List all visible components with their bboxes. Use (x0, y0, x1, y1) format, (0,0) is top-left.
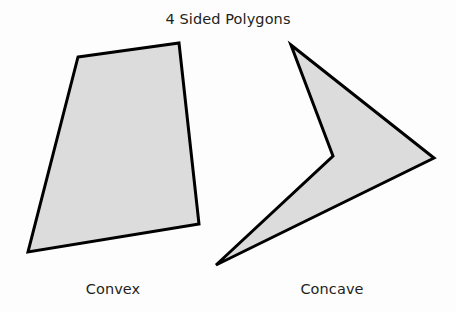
convex-label: Convex (53, 281, 173, 297)
polygon-canvas (0, 0, 456, 312)
convex-polygon-shape (28, 43, 199, 252)
concave-label: Concave (272, 281, 392, 297)
concave-polygon-shape (216, 45, 434, 265)
polygon-figure: 4 Sided Polygons Convex Concave (0, 0, 456, 312)
